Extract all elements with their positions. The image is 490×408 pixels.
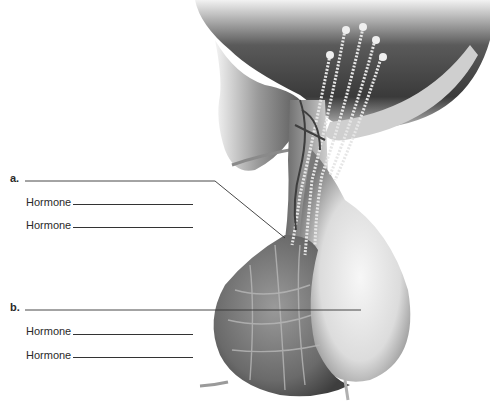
label-a-letter: a. (10, 172, 19, 185)
label-b-letter: b. (10, 301, 20, 314)
label-b-hormone-2-prefix: Hormone (26, 349, 71, 362)
label-b-hormone-1-prefix: Hormone (26, 325, 71, 338)
label-a-hormone-1-blank[interactable] (73, 204, 193, 205)
label-b-hormone-2-blank[interactable] (73, 357, 193, 358)
label-a-hormone-1-prefix: Hormone (26, 196, 71, 209)
label-b-hormone-1-blank[interactable] (73, 334, 193, 335)
label-a-hormone-2-prefix: Hormone (26, 219, 71, 232)
label-a-hormone-2-blank[interactable] (73, 227, 193, 228)
